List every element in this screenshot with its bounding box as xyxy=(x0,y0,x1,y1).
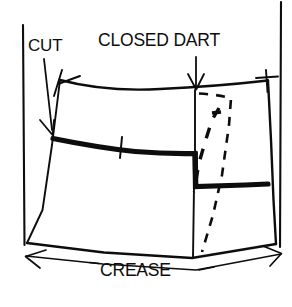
panel-hem-edge xyxy=(27,243,276,258)
reference-line-right xyxy=(280,2,281,247)
notch-tick-right-seam-extension xyxy=(266,70,268,92)
heavy-cut-line-riser xyxy=(195,152,196,188)
panel-top-edge xyxy=(60,80,268,90)
panel-right-seam xyxy=(268,81,276,245)
label-cut: CUT xyxy=(28,37,62,54)
crease-label-leader-left xyxy=(90,263,99,264)
dart-apex-tick xyxy=(212,112,221,113)
dart-dashed-inner-leg xyxy=(194,108,219,192)
reference-line-left xyxy=(23,25,25,245)
cut-arrow-shaft xyxy=(44,59,52,130)
label-closed-dart: CLOSED DART xyxy=(98,32,220,50)
notch-tick-cut-line-middle xyxy=(120,137,122,158)
center-fold-line xyxy=(193,187,194,258)
figure-root: CUT CLOSED DART CREASE xyxy=(0,0,292,307)
label-crease: CREASE xyxy=(100,262,171,280)
panel-left-seam xyxy=(27,80,60,243)
crease-arrow-head-left xyxy=(26,250,47,268)
heavy-cut-line xyxy=(53,139,268,187)
